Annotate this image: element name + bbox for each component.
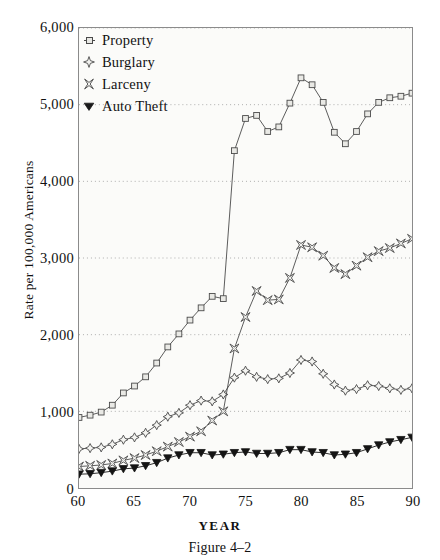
y-tick-6000: 6,000 bbox=[40, 19, 74, 36]
figure-caption: Figure 4–2 bbox=[0, 540, 440, 556]
x-tick-65: 65 bbox=[126, 493, 141, 510]
x-axis-title: YEAR bbox=[0, 518, 440, 534]
x-tick-70: 70 bbox=[182, 493, 197, 510]
legend-label-property: Property bbox=[102, 32, 154, 49]
x-axis-tick-labels: 60 65 70 75 80 85 90 bbox=[0, 493, 440, 515]
y-tick-2000: 2,000 bbox=[40, 327, 74, 344]
y-tick-3000: 3,000 bbox=[40, 250, 74, 267]
x-star-marker-icon bbox=[82, 77, 96, 91]
legend-item-larceny: Larceny bbox=[82, 74, 168, 94]
filled-triangle-marker-icon bbox=[82, 99, 96, 113]
x-tick-85: 85 bbox=[350, 493, 365, 510]
series-larceny bbox=[79, 234, 412, 471]
y-tick-1000: 1,000 bbox=[40, 404, 74, 421]
square-marker-icon bbox=[82, 33, 96, 47]
x-tick-90: 90 bbox=[405, 493, 420, 510]
x-tick-80: 80 bbox=[294, 493, 309, 510]
chart-legend: Property Burglary Larceny Auto Theft bbox=[82, 30, 168, 116]
figure-container: 0 1,000 2,000 3,000 4,000 5,000 6,000 Ra… bbox=[0, 0, 440, 560]
y-tick-5000: 5,000 bbox=[40, 96, 74, 113]
data-series-layer bbox=[79, 75, 412, 478]
series-burglary bbox=[79, 355, 412, 453]
legend-item-property: Property bbox=[82, 30, 168, 50]
legend-item-auto-theft: Auto Theft bbox=[82, 96, 168, 116]
legend-label-burglary: Burglary bbox=[102, 54, 155, 71]
legend-label-auto-theft: Auto Theft bbox=[102, 98, 168, 115]
legend-label-larceny: Larceny bbox=[102, 76, 151, 93]
y-tick-4000: 4,000 bbox=[40, 173, 74, 190]
legend-item-burglary: Burglary bbox=[82, 52, 168, 72]
four-point-star-marker-icon bbox=[82, 55, 96, 69]
y-axis-title-wrap: Rate per 100,000 Americans bbox=[0, 0, 40, 560]
series-auto-theft bbox=[79, 434, 412, 478]
x-tick-75: 75 bbox=[238, 493, 253, 510]
x-tick-60: 60 bbox=[70, 493, 85, 510]
y-axis-title: Rate per 100,000 Americans bbox=[21, 125, 37, 355]
